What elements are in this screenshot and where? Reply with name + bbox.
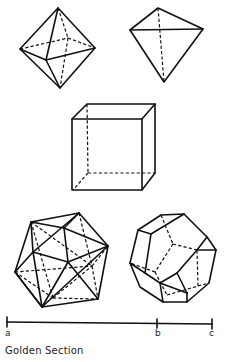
dodecahedron-drawing bbox=[130, 214, 216, 302]
point-label-b: b bbox=[155, 329, 161, 338]
golden-section-segment bbox=[7, 317, 212, 329]
icosahedron-drawing bbox=[15, 213, 108, 307]
octahedron-drawing bbox=[20, 8, 95, 88]
point-label-c: c bbox=[209, 329, 214, 338]
point-label-a: a bbox=[5, 329, 11, 338]
figure-caption: Golden Section bbox=[5, 345, 84, 356]
platonic-solids-figure bbox=[0, 0, 226, 362]
cube-drawing bbox=[72, 104, 155, 190]
tetrahedron-drawing bbox=[130, 8, 203, 82]
